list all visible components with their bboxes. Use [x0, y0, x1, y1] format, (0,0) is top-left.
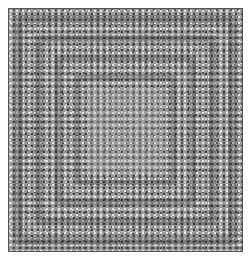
center-region: [87, 87, 164, 173]
texture-frame: [8, 8, 243, 252]
